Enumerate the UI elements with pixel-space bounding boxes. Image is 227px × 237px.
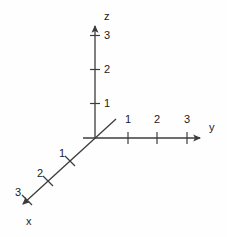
y-tick-label-3: 3 [184, 114, 190, 125]
z-tick-label-2: 2 [104, 64, 110, 75]
z-axis-label: z [104, 11, 110, 22]
x-tick-label-2: 2 [37, 168, 43, 179]
x-axis-label: x [26, 216, 32, 227]
x-tick-label-3: 3 [15, 187, 21, 198]
z-tick-label-3: 3 [104, 30, 110, 41]
z-tick-label-1: 1 [104, 98, 110, 109]
axes-drawing [0, 0, 227, 237]
y-tick-label-2: 2 [154, 114, 160, 125]
x-axis-line [23, 119, 116, 204]
y-tick-label-1: 1 [125, 114, 131, 125]
x-axis-group [22, 119, 116, 205]
x-tick-label-1: 1 [59, 148, 65, 159]
z-axis-group [90, 26, 100, 138]
y-axis-label: y [209, 122, 215, 133]
coordinate-axes-figure: z y x 1 2 3 1 2 3 1 2 3 [0, 0, 227, 237]
